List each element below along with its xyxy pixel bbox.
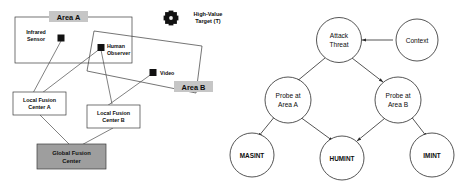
node-probe-b-line2: Area B: [388, 101, 409, 108]
figure-canvas: Area A Area B Infrared Sensor Human Obse…: [0, 0, 459, 183]
node-attack-threat-line2: Threat: [329, 41, 348, 48]
node-imint-label: IMINT: [423, 152, 440, 159]
node-attack-threat[interactable]: [317, 18, 362, 63]
node-context-label: Context: [406, 37, 429, 44]
edge-attack-threat-to-probe-b: [352, 58, 383, 82]
node-attack-threat-line1: Attack: [330, 32, 349, 39]
node-masint-label: MASINT: [240, 152, 265, 159]
edge-attack-threat-to-probe-a: [296, 58, 325, 82]
node-probe-a-line1: Probe at: [276, 92, 301, 99]
node-probe-at-area-b[interactable]: [375, 77, 421, 123]
edge-probe-a-to-masint: [258, 115, 276, 137]
node-probe-a-line2: Area A: [278, 101, 298, 108]
right-panel-decision-tree: Attack Threat Context Probe at Area A Pr…: [0, 0, 459, 183]
node-probe-at-area-a[interactable]: [265, 77, 311, 123]
node-humint-label: HUMINT: [330, 155, 355, 162]
node-probe-b-line1: Probe at: [386, 92, 411, 99]
